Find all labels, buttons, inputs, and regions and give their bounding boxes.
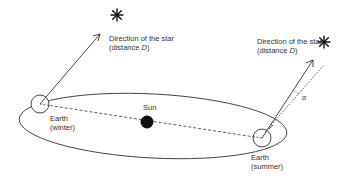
angle-alpha-arc (294, 91, 299, 95)
sun-label: Sun (143, 103, 156, 112)
earth-winter-label: Earth (winter) (50, 114, 75, 132)
star-label-winter-line2: (distance D) (109, 43, 174, 52)
star-direction-arrow-winter (40, 34, 100, 104)
star-label-winter: Direction of the star (distance D) (109, 34, 174, 52)
parallel-reference-dotted (265, 66, 323, 132)
earth-summer-label: Earth (summer) (251, 153, 283, 171)
angle-alpha-label: α (302, 93, 306, 102)
star-label-summer-line1: Direction of the star (257, 37, 322, 46)
star-label-summer-line2: (distance D) (257, 46, 322, 55)
sun (141, 116, 154, 129)
star-label-winter-line1: Direction of the star (109, 34, 174, 43)
asterisk-star-icon (111, 9, 123, 21)
star-label-summer: Direction of the star (distance D) (257, 37, 322, 55)
parallax-diagram (0, 0, 348, 182)
